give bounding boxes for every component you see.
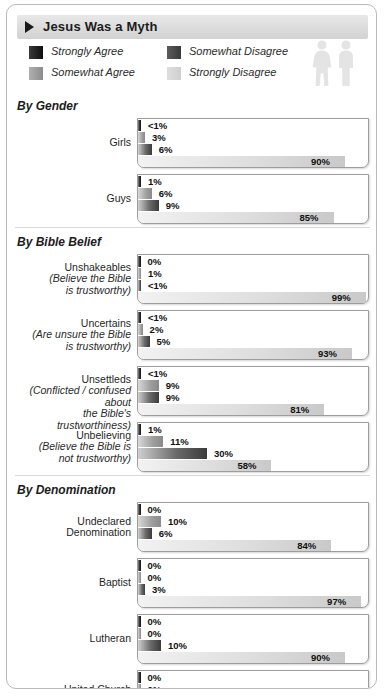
- row-label: Guys: [7, 193, 131, 205]
- section-divider: [15, 227, 370, 228]
- bar-value-label: 5%: [157, 336, 171, 347]
- bar-segment: [138, 200, 159, 211]
- chart-row: United Churchof Christ0%0%13%88%: [7, 669, 377, 689]
- bar-segment: [138, 424, 141, 435]
- row-label: Girls: [7, 137, 131, 149]
- bar-segment: [138, 120, 141, 131]
- bar-value-label: 1%: [148, 176, 162, 187]
- legend-label: Somewhat Disagree: [189, 45, 288, 57]
- row-label: Baptist: [7, 577, 131, 589]
- bar-track: 1%6%9%85%: [137, 174, 369, 224]
- legend-swatch-somewhat-agree: [29, 67, 43, 80]
- bar-segment: [138, 268, 141, 279]
- chart-header: Jesus Was a Myth: [17, 15, 368, 39]
- bar-value-label: 85%: [300, 212, 319, 223]
- legend-label: Somewhat Agree: [51, 66, 135, 78]
- bar-value-label: 10%: [168, 640, 187, 651]
- bar-value-label: 9%: [166, 392, 180, 403]
- bar-segment: [138, 392, 159, 403]
- bar-value-label: 81%: [290, 404, 309, 415]
- bar-segment: [138, 436, 163, 447]
- bar-segment: [138, 132, 145, 143]
- bar-value-label: 84%: [297, 540, 316, 551]
- chart-card: Jesus Was a Myth Strongly Agree Somewhat…: [6, 4, 377, 689]
- bar-value-label: 3%: [152, 584, 166, 595]
- bar-value-label: 0%: [148, 504, 162, 515]
- chart-row: Unsettleds(Conflicted / confused aboutth…: [7, 365, 377, 417]
- chart-row: Girls<1%3%6%90%: [7, 117, 377, 169]
- bar-value-label: 0%: [148, 572, 162, 583]
- page-title: Jesus Was a Myth: [43, 19, 158, 34]
- legend-label: Strongly Disagree: [189, 66, 276, 78]
- bar-track: 0%10%6%84%: [137, 502, 369, 552]
- section-divider: [15, 475, 370, 476]
- bar-segment: [138, 368, 141, 379]
- bar-segment: [138, 528, 152, 539]
- section-title: By Denomination: [17, 483, 116, 497]
- row-label: Unbelieving(Believe the Bible isnot trus…: [7, 430, 131, 465]
- row-label: UndeclaredDenomination: [7, 516, 131, 539]
- bar-track: 0%0%3%97%: [137, 558, 369, 608]
- bar-track: 1%11%30%58%: [137, 422, 369, 472]
- bar-value-label: 0%: [148, 256, 162, 267]
- bar-segment: [138, 628, 141, 639]
- bar-value-label: 0%: [148, 672, 162, 683]
- bar-segment: [138, 684, 141, 689]
- row-label: United Churchof Christ: [7, 684, 131, 690]
- chart-row: Lutheran0%0%10%90%: [7, 613, 377, 665]
- bar-value-label: 90%: [311, 156, 330, 167]
- bar-segment: [138, 312, 141, 323]
- bar-segment: [138, 448, 207, 459]
- bar-value-label: 11%: [170, 436, 189, 447]
- bar-segment: [138, 560, 141, 571]
- bar-value-label: 6%: [159, 144, 173, 155]
- bar-value-label: 9%: [166, 200, 180, 211]
- chart-row: UndeclaredDenomination0%10%6%84%: [7, 501, 377, 553]
- bar-value-label: 6%: [159, 188, 173, 199]
- bar-value-label: 1%: [148, 268, 162, 279]
- bar-value-label: 93%: [318, 348, 337, 359]
- bar-value-label: 0%: [148, 684, 162, 689]
- bar-segment: [138, 616, 141, 627]
- bar-segment: [138, 256, 141, 267]
- bar-segment: [138, 504, 141, 515]
- bar-value-label: 30%: [214, 448, 233, 459]
- chart-row: Unbelieving(Believe the Bible isnot trus…: [7, 421, 377, 473]
- bar-value-label: 99%: [332, 292, 351, 303]
- chart-row: Uncertains(Are unsure the Bibleis trustw…: [7, 309, 377, 361]
- legend: Strongly Agree Somewhat Agree Somewhat D…: [19, 45, 309, 85]
- section-title: By Gender: [17, 99, 78, 113]
- section-title: By Bible Belief: [17, 235, 101, 249]
- row-label: Unshakeables(Believe the Bibleis trustwo…: [7, 262, 131, 297]
- row-label: Lutheran: [7, 633, 131, 645]
- bar-value-label: 90%: [311, 652, 330, 663]
- bar-segment: [138, 584, 145, 595]
- bar-segment: [138, 380, 159, 391]
- legend-label: Strongly Agree: [51, 45, 123, 57]
- bar-segment: [138, 144, 152, 155]
- bar-value-label: 1%: [148, 424, 162, 435]
- bar-track: 0%0%10%90%: [137, 614, 369, 664]
- bar-track: 0%1%<1%99%: [137, 254, 369, 304]
- bar-value-label: 2%: [150, 324, 164, 335]
- bar-value-label: 58%: [237, 460, 256, 471]
- bar-value-label: 0%: [148, 560, 162, 571]
- bar-track: <1%2%5%93%: [137, 310, 369, 360]
- bar-track: <1%3%6%90%: [137, 118, 369, 168]
- bar-value-label: 0%: [148, 628, 162, 639]
- two-people-icon: [306, 39, 362, 89]
- bar-segment: [138, 188, 152, 199]
- bar-value-label: <1%: [148, 280, 167, 291]
- triangle-right-icon: [25, 21, 34, 33]
- bar-value-label: 6%: [159, 528, 173, 539]
- bar-value-label: 3%: [152, 132, 166, 143]
- row-label: Uncertains(Are unsure the Bibleis trustw…: [7, 318, 131, 353]
- bar-segment: [138, 324, 143, 335]
- bar-track: <1%9%9%81%: [137, 366, 369, 416]
- bar-value-label: <1%: [148, 368, 167, 379]
- bar-value-label: 10%: [168, 516, 187, 527]
- bar-track: 0%0%13%88%: [137, 670, 369, 689]
- bar-value-label: 9%: [166, 380, 180, 391]
- bar-segment: [138, 176, 141, 187]
- bar-segment: [138, 572, 141, 583]
